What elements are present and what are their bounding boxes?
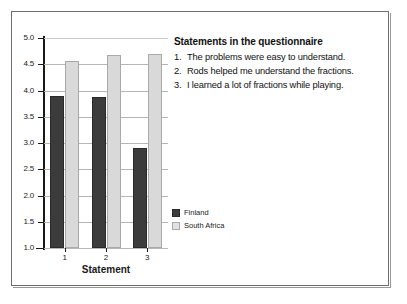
y-axis-tick-mark	[38, 143, 43, 144]
statement-number: 2.	[174, 66, 187, 76]
y-axis-tick-mark	[38, 38, 43, 39]
legend-swatch	[172, 222, 180, 230]
chart-legend: FinlandSouth Africa	[172, 207, 224, 233]
plot-area	[44, 38, 168, 248]
legend-label: South Africa	[184, 221, 224, 230]
y-axis-tick-mark	[38, 196, 43, 197]
bar	[92, 97, 106, 248]
x-axis-tick-label: 1	[55, 253, 75, 262]
legend-item: Finland	[172, 207, 224, 218]
bar	[65, 61, 79, 248]
statement-text: The problems were easy to understand.	[187, 52, 384, 62]
statement-item: 3.I learned a lot of fractions while pla…	[174, 80, 384, 90]
bar	[50, 96, 64, 248]
bar	[133, 148, 147, 248]
y-axis-tick-mark	[38, 169, 43, 170]
x-axis-tick-mark	[106, 248, 107, 252]
y-axis-tick-label: 2.0	[4, 191, 34, 200]
x-axis-tick-label: 2	[96, 253, 116, 262]
y-axis-tick-mark	[38, 222, 43, 223]
bar	[148, 54, 162, 248]
x-axis-tick-mark	[147, 248, 148, 252]
legend-item: South Africa	[172, 220, 224, 231]
y-axis-tick-mark	[38, 91, 43, 92]
x-axis-tick-mark	[65, 248, 66, 252]
bar	[107, 55, 121, 248]
y-axis-tick-label: 3.5	[4, 112, 34, 121]
y-axis-tick-label: 5.0	[4, 33, 34, 42]
statement-item: 1.The problems were easy to understand.	[174, 52, 384, 62]
statement-item: 2.Rods helped me understand the fraction…	[174, 66, 384, 76]
y-gridline	[44, 38, 168, 39]
y-axis-tick-label: 2.5	[4, 164, 34, 173]
y-axis-tick-label: 4.5	[4, 59, 34, 68]
legend-label: Finland	[184, 208, 209, 217]
statement-number: 1.	[174, 52, 187, 62]
y-axis-tick-mark	[38, 64, 43, 65]
x-axis-tick-label: 3	[137, 253, 157, 262]
statements-heading: Statements in the questionnaire	[174, 36, 384, 47]
y-axis-tick-mark	[38, 117, 43, 118]
y-axis-tick-label: 1.5	[4, 217, 34, 226]
figure-container: 1.01.52.02.53.03.54.04.55.0123 Statement…	[0, 0, 407, 304]
y-axis-tick-label: 4.0	[4, 86, 34, 95]
statement-text: Rods helped me understand the fractions.	[187, 66, 384, 76]
x-axis-title: Statement	[44, 264, 168, 275]
y-axis-tick-label: 1.0	[4, 243, 34, 252]
statements-list: 1.The problems were easy to understand.2…	[174, 52, 384, 90]
legend-swatch	[172, 209, 180, 217]
y-axis-tick-label: 3.0	[4, 138, 34, 147]
statement-number: 3.	[174, 80, 187, 90]
y-axis-tick-mark	[38, 248, 43, 249]
statement-text: I learned a lot of fractions while playi…	[187, 80, 384, 90]
statements-panel: Statements in the questionnaire 1.The pr…	[174, 36, 384, 94]
